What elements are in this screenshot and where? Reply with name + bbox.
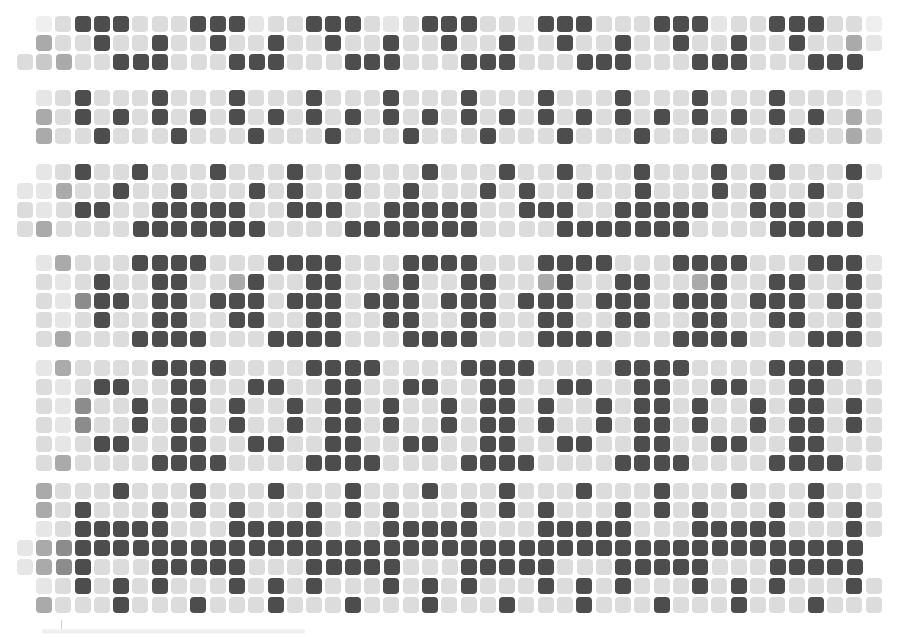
heatmap-cell (403, 255, 419, 271)
heatmap-cell (94, 502, 110, 518)
heatmap-cell (846, 455, 862, 471)
heatmap-cell (75, 597, 91, 613)
heatmap-cell (306, 331, 322, 347)
heatmap-cell (808, 128, 824, 144)
heatmap-cell (789, 540, 805, 556)
heatmap-cell (229, 417, 245, 433)
heatmap-cell (383, 109, 399, 125)
heatmap-cell (596, 183, 612, 199)
heatmap-cell (94, 417, 110, 433)
heatmap-cell (499, 455, 515, 471)
heatmap-cell (94, 90, 110, 106)
heatmap-cell (190, 312, 206, 328)
heatmap-cell (229, 559, 245, 575)
heatmap-cell (461, 578, 477, 594)
heatmap-cell (711, 502, 727, 518)
heatmap-cell (325, 255, 341, 271)
heatmap-cell (577, 559, 593, 575)
heatmap-cell (827, 312, 843, 328)
heatmap-cell (152, 540, 168, 556)
heatmap-cell (615, 16, 631, 32)
heatmap-cell (615, 360, 631, 376)
heatmap-cell (712, 202, 728, 218)
heatmap-cell (287, 293, 303, 309)
heatmap-cell (731, 540, 747, 556)
heatmap-cell (364, 16, 380, 32)
heatmap-cell (210, 521, 226, 537)
heatmap-cell (229, 312, 245, 328)
heatmap-cell (422, 455, 438, 471)
heatmap-cell (557, 578, 573, 594)
heatmap-cell (210, 436, 226, 452)
heatmap-cell (808, 379, 824, 395)
heatmap-cell (383, 436, 399, 452)
heatmap-cell (711, 597, 727, 613)
heatmap-cell (557, 274, 573, 290)
heatmap-cell (731, 436, 747, 452)
heatmap-cell (325, 417, 341, 433)
heatmap-cell (229, 540, 245, 556)
heatmap-cell (634, 483, 650, 499)
heatmap-row (36, 455, 885, 471)
heatmap-cell (190, 16, 206, 32)
heatmap-cell (596, 436, 612, 452)
heatmap-cell (789, 360, 805, 376)
heatmap-cell (36, 255, 52, 271)
heatmap-cell (866, 255, 882, 271)
heatmap-cell (673, 455, 689, 471)
heatmap-cell (441, 35, 457, 51)
heatmap-cell (364, 360, 380, 376)
heatmap-cell (750, 312, 766, 328)
heatmap-cell (422, 578, 438, 594)
heatmap-cell (557, 109, 573, 125)
heatmap-cell (268, 164, 284, 180)
heatmap-cell (866, 455, 882, 471)
heatmap-cell (808, 559, 824, 575)
heatmap-cell (441, 164, 457, 180)
heatmap-cell (171, 312, 187, 328)
heatmap-cell (769, 502, 785, 518)
heatmap-cell (654, 331, 670, 347)
heatmap-cell (364, 455, 380, 471)
heatmap-cell (673, 436, 689, 452)
heatmap-cell (364, 255, 380, 271)
heatmap-cell (384, 221, 400, 237)
heatmap-cell (538, 578, 554, 594)
heatmap-cell (113, 293, 129, 309)
heatmap-cell (654, 164, 670, 180)
heatmap-cell (692, 90, 708, 106)
heatmap-cell (171, 183, 187, 199)
heatmap-cell (133, 540, 149, 556)
heatmap-cell (403, 293, 419, 309)
heatmap-cell (229, 274, 245, 290)
heatmap-cell (789, 331, 805, 347)
heatmap-cell (345, 164, 361, 180)
heatmap-cell (268, 331, 284, 347)
heatmap-cell (383, 502, 399, 518)
heatmap-cell (827, 35, 843, 51)
heatmap-cell (229, 379, 245, 395)
heatmap-cell (75, 417, 91, 433)
heatmap-cell (480, 109, 496, 125)
heatmap-cell (152, 502, 168, 518)
heatmap-cell (846, 35, 862, 51)
heatmap-cell (403, 502, 419, 518)
heatmap-cell (248, 502, 264, 518)
heatmap-cell (518, 360, 534, 376)
heatmap-cell (769, 16, 785, 32)
heatmap-cell (634, 164, 650, 180)
heatmap-cell (846, 274, 862, 290)
heatmap-cell (17, 559, 33, 575)
heatmap-cell (75, 521, 91, 537)
heatmap-cell (190, 379, 206, 395)
heatmap-cell (634, 90, 650, 106)
heatmap-cell (36, 483, 52, 499)
heatmap-cell (634, 331, 650, 347)
heatmap-cell (769, 128, 785, 144)
heatmap-cell (866, 274, 882, 290)
heatmap-cell (364, 128, 380, 144)
heatmap-cell (635, 540, 651, 556)
heatmap-cell (75, 398, 91, 414)
heatmap-cell (750, 559, 766, 575)
heatmap-cell (210, 90, 226, 106)
